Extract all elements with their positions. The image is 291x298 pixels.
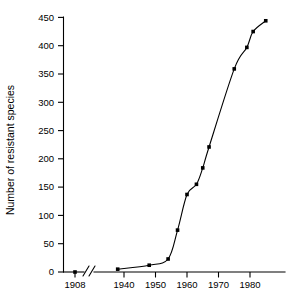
y-tick-label-350: 350: [38, 68, 54, 79]
y-tick-label-450: 450: [38, 12, 54, 23]
y-tick-label-150: 150: [38, 181, 54, 192]
x-tick-label-1960: 1960: [176, 279, 197, 290]
data-point-1954: [166, 257, 170, 261]
data-point-1979: [245, 46, 249, 50]
data-point-1963: [195, 183, 199, 187]
chart-figure: Number of resistant species 0 50 1: [0, 0, 291, 298]
data-point-1957: [176, 228, 180, 232]
data-point-1975: [232, 67, 236, 71]
resistant-species-line-chart: Number of resistant species 0 50 1: [0, 0, 291, 298]
y-tick-label-100: 100: [38, 210, 54, 221]
x-tick-label-1950: 1950: [145, 279, 166, 290]
y-axis-title: Number of resistant species: [4, 85, 16, 215]
x-tick-label-1908: 1908: [64, 279, 85, 290]
y-tick-label-400: 400: [38, 40, 54, 51]
y-tick-label-200: 200: [38, 153, 54, 164]
data-point-1948: [147, 263, 151, 267]
data-point-1967: [207, 145, 211, 149]
x-tick-label-1970: 1970: [208, 279, 229, 290]
y-tick-label-0: 0: [49, 266, 54, 277]
y-tick-label-250: 250: [38, 125, 54, 136]
x-tick-label-1940: 1940: [113, 279, 134, 290]
data-point-1960: [185, 193, 189, 197]
data-point-1985: [264, 19, 268, 23]
data-point-1908: [73, 270, 77, 274]
data-point-1965: [201, 166, 205, 170]
x-tick-label-1980: 1980: [239, 279, 260, 290]
data-point-1981: [251, 30, 255, 34]
y-tick-label-300: 300: [38, 97, 54, 108]
data-point-1938: [116, 267, 120, 271]
y-tick-label-50: 50: [43, 238, 54, 249]
